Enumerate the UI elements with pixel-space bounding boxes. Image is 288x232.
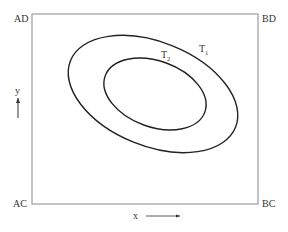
plot-frame (32, 14, 258, 204)
diagram-canvas: AD BD AC BC T1 T2 y x (0, 0, 288, 232)
contour-label-t1: T1 (199, 43, 208, 56)
contour-outer-t1 (51, 12, 255, 175)
x-axis-label: x (133, 210, 138, 221)
corner-label-bottom-right: BC (262, 198, 276, 209)
corner-label-bottom-left: AC (13, 198, 27, 209)
corner-label-top-left: AD (14, 13, 28, 24)
corner-label-top-right: BD (262, 13, 276, 24)
contour-label-t2: T2 (161, 49, 170, 62)
y-axis-label: y (15, 85, 20, 96)
contour-inner-t2 (94, 45, 216, 143)
